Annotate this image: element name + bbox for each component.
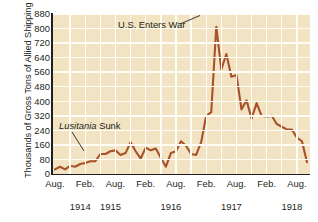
vertical-gridline [266,14,267,174]
y-axis-tick-label: 320 [16,111,50,120]
y-axis-tick-label: 240 [16,126,50,135]
x-axis-line [51,174,310,176]
vertical-gridline-minor [190,14,191,174]
x-axis-year-label: 1916 [148,201,194,212]
vertical-gridline-minor [160,14,161,174]
vertical-gridline-minor [221,14,222,174]
annotation-us-enters-war: U.S. Enters War [118,19,185,30]
horizontal-gridline [52,144,310,145]
vertical-gridline [85,14,86,174]
shipping-loss-line [55,27,307,170]
y-axis-tick-label: 800 [16,24,50,33]
y-axis-line [51,13,53,175]
vertical-gridline-minor [100,14,101,174]
y-axis-tick-label: 80 [16,155,50,164]
y-axis-tick-label: 480 [16,82,50,91]
shipping-losses-chart: Thousands of Gross Tons of Allied Shippi… [0,0,318,222]
y-axis-tick-label: 400 [16,97,50,106]
y-axis-tick-label: 640 [16,53,50,62]
horizontal-gridline [52,14,310,15]
plot-area [52,14,310,174]
vertical-gridline [115,14,116,174]
vertical-gridline [175,14,176,174]
annotation-lusitania-plain: Sunk [97,120,121,131]
vertical-gridline [296,14,297,174]
horizontal-gridline [52,71,310,72]
horizontal-gridline [52,115,310,116]
horizontal-gridline [52,42,310,43]
horizontal-gridline [52,86,310,87]
y-axis-tick-label: 880 [16,9,50,18]
vertical-gridline-minor [251,14,252,174]
vertical-gridline-minor [69,14,70,174]
vertical-gridline [206,14,207,174]
vertical-gridline-minor [130,14,131,174]
annotation-lusitania-sunk: Lusitania Sunk [59,120,121,131]
vertical-gridline [236,14,237,174]
horizontal-gridline [52,159,310,160]
x-axis-year-label: 1918 [269,201,315,212]
y-axis-tick-label: 720 [16,38,50,47]
data-line-svg [52,14,310,174]
x-axis-year-label: 1917 [208,201,254,212]
annotation-us-enters-war-label: U.S. Enters War [118,19,185,30]
annotation-lusitania-italic: Lusitania [59,120,97,131]
horizontal-gridline [52,101,310,102]
y-axis-tick-label: 160 [16,140,50,149]
horizontal-gridline [52,57,310,58]
x-axis-year-label: 1915 [87,201,133,212]
vertical-gridline-minor [281,14,282,174]
x-axis-tick-label: Aug. [277,178,317,189]
vertical-gridline [145,14,146,174]
y-axis-tick-label: 560 [16,67,50,76]
